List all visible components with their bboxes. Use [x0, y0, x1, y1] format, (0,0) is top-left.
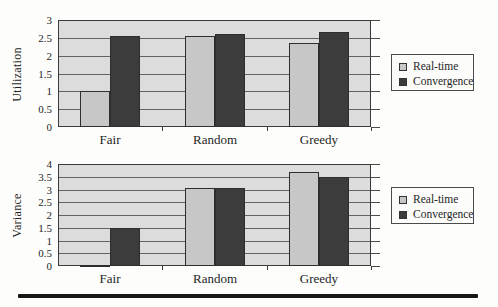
legend-item-convergence: Convergence: [399, 207, 473, 222]
convergence-swatch-icon: [399, 211, 407, 219]
y-tick-label: 4: [20, 158, 52, 170]
gridline: [59, 56, 370, 57]
bar-convergence-greedy: [319, 32, 349, 127]
y-tick-label: 2: [20, 50, 52, 62]
right-axis-tick: [371, 91, 380, 92]
utilization-chart: 00.511.522.53FairRandomGreedyUtilization: [0, 0, 498, 307]
x-axis-tick: [371, 127, 372, 131]
y-axis-title: Variance: [10, 171, 25, 261]
gridline: [59, 38, 370, 39]
gridline: [59, 215, 370, 216]
y-tick-label: 2: [20, 209, 52, 221]
category-label-greedy: Greedy: [284, 132, 354, 148]
bar-convergence-greedy: [319, 177, 349, 266]
gridline: [59, 74, 370, 75]
category-label-greedy: Greedy: [284, 271, 354, 287]
legend-item-real-time: Real-time: [399, 192, 473, 207]
y-tick-label: 2.5: [20, 196, 52, 208]
y-tick-label: 3.5: [20, 171, 52, 183]
x-axis-tick: [267, 127, 268, 131]
bar-real-time-greedy: [289, 172, 319, 266]
y-tick-label: 1.5: [20, 68, 52, 80]
bar-real-time-greedy: [289, 43, 319, 127]
variance-chart: 00.511.522.533.54FairRandomGreedyVarianc…: [0, 0, 498, 307]
right-axis-tick: [371, 177, 380, 178]
right-axis-tick: [371, 164, 380, 165]
plot-area: [58, 164, 371, 266]
y-tick-label: 3: [20, 14, 52, 26]
gridline: [59, 177, 370, 178]
y-tick-label: 0.5: [20, 247, 52, 259]
gridline: [59, 109, 370, 110]
y-tick-label: 1.5: [20, 222, 52, 234]
real-time-swatch-icon: [399, 196, 407, 204]
right-axis-tick: [371, 38, 380, 39]
legend-item-real-time: Real-time: [399, 59, 473, 74]
convergence-swatch-icon: [399, 78, 407, 86]
y-tick-label: 3: [20, 184, 52, 196]
y-axis-title: Utilization: [10, 29, 25, 119]
right-axis-tick: [371, 127, 380, 128]
bar-real-time-fair: [80, 91, 110, 127]
legend-label-real-time: Real-time: [413, 193, 458, 206]
x-axis-tick: [162, 127, 163, 131]
bar-real-time-random: [185, 188, 215, 266]
y-tick-label: 0.5: [20, 103, 52, 115]
gridline: [59, 228, 370, 229]
legend-label-convergence: Convergence: [413, 208, 473, 221]
legend-variance: Real-time Convergence: [391, 187, 474, 224]
real-time-swatch-icon: [399, 63, 407, 71]
bar-real-time-random: [185, 36, 215, 127]
gridline: [59, 91, 370, 92]
category-label-random: Random: [180, 271, 250, 287]
gridline: [59, 253, 370, 254]
legend-label-real-time: Real-time: [413, 60, 458, 73]
bar-convergence-fair: [110, 36, 140, 127]
legend-item-convergence: Convergence: [399, 74, 473, 89]
right-axis-tick: [371, 109, 380, 110]
legend-utilization: Real-time Convergence: [391, 54, 474, 91]
x-axis-tick: [162, 266, 163, 270]
x-axis-tick: [371, 266, 372, 270]
right-axis-tick: [371, 20, 380, 21]
right-axis-tick: [371, 215, 380, 216]
plot-area: [58, 20, 371, 127]
y-tick-label: 1: [20, 85, 52, 97]
gridline: [59, 202, 370, 203]
y-tick-label: 0: [20, 260, 52, 272]
right-axis-tick: [371, 202, 380, 203]
bottom-rule-divider: [18, 294, 478, 298]
x-axis-tick: [267, 266, 268, 270]
right-axis-tick: [371, 266, 380, 267]
category-label-fair: Fair: [75, 132, 145, 148]
bar-convergence-fair: [110, 228, 140, 266]
right-axis-tick: [371, 74, 380, 75]
y-tick-label: 0: [20, 121, 52, 133]
bar-convergence-random: [215, 188, 245, 266]
right-axis-tick: [371, 241, 380, 242]
right-axis-tick: [371, 190, 380, 191]
gridline: [59, 241, 370, 242]
right-axis-tick: [371, 56, 380, 57]
y-tick-label: 1: [20, 235, 52, 247]
legend-label-convergence: Convergence: [413, 75, 473, 88]
gridline: [59, 190, 370, 191]
bar-real-time-fair: [80, 265, 110, 267]
category-label-random: Random: [180, 132, 250, 148]
figure: 00.511.522.53FairRandomGreedyUtilization…: [0, 0, 498, 307]
right-axis-tick: [371, 228, 380, 229]
bar-convergence-random: [215, 34, 245, 127]
right-axis-tick: [371, 253, 380, 254]
category-label-fair: Fair: [75, 271, 145, 287]
y-tick-label: 2.5: [20, 32, 52, 44]
